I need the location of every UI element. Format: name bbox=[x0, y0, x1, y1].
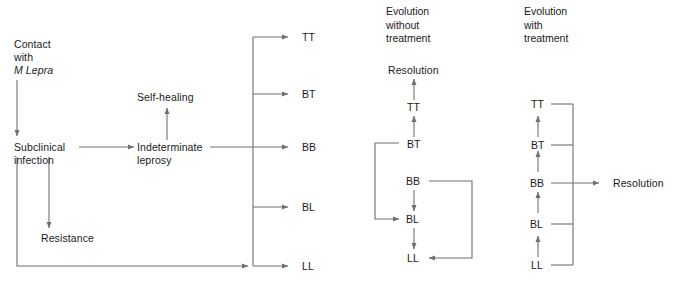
node-resistance: Resistance bbox=[41, 232, 94, 245]
mid-edge-bt-to-bl bbox=[375, 143, 399, 219]
edge-subclinical-bottom-route bbox=[17, 157, 248, 266]
node-indeterminate-leprosy: Indeterminate leprosy bbox=[137, 141, 203, 167]
node-self-healing: Self-healing bbox=[137, 91, 194, 104]
right-node-bl: BL bbox=[530, 218, 543, 231]
node-contact-organism: M Lepra bbox=[14, 64, 53, 77]
spectrum-label-bb: BB bbox=[302, 141, 316, 154]
right-node-tt: TT bbox=[531, 98, 544, 111]
mid-edge-bb-to-ll bbox=[429, 181, 472, 258]
leprosy-evolution-diagram: Contact with M Lepra Subclinical infecti… bbox=[0, 0, 675, 281]
spectrum-label-tt: TT bbox=[302, 31, 315, 44]
spectrum-label-bl: BL bbox=[302, 201, 315, 214]
middle-node-bl: BL bbox=[406, 213, 419, 226]
right-panel-heading: Evolution with treatment bbox=[524, 5, 568, 46]
middle-node-ll: LL bbox=[407, 252, 419, 265]
spectrum-label-ll: LL bbox=[302, 260, 314, 273]
diagram-connectors bbox=[0, 0, 675, 281]
right-node-ll: LL bbox=[531, 259, 543, 272]
right-node-resolution: Resolution bbox=[613, 177, 664, 190]
right-node-bt: BT bbox=[531, 139, 545, 152]
node-subclinical-infection: Subclinical infection bbox=[14, 141, 65, 167]
middle-node-resolution: Resolution bbox=[388, 64, 439, 77]
node-contact: Contact with bbox=[14, 38, 51, 64]
spectrum-label-bt: BT bbox=[302, 88, 316, 101]
middle-node-bb: BB bbox=[406, 175, 420, 188]
middle-node-bt: BT bbox=[407, 138, 421, 151]
middle-panel-heading: Evolution without treatment bbox=[386, 5, 430, 46]
middle-node-tt: TT bbox=[407, 101, 420, 114]
right-node-bb: BB bbox=[530, 177, 544, 190]
